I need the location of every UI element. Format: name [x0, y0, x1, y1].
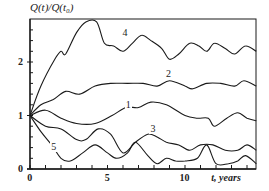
series-line-2 — [30, 81, 256, 116]
y-tick-label: 2 — [18, 57, 23, 67]
series-label-5: 5 — [50, 142, 57, 152]
series-lines — [30, 20, 256, 165]
plot-area — [0, 0, 269, 191]
x-tick-label: 5 — [105, 173, 110, 183]
y-tick-label: 0 — [18, 164, 23, 174]
x-tick-label: 10 — [180, 173, 190, 183]
y-tick-label: 1 — [18, 111, 23, 121]
series-line-4 — [30, 20, 256, 116]
x-axis-title: t, years — [211, 173, 240, 183]
plot-frame — [30, 19, 256, 169]
x-tick-label: 0 — [27, 173, 32, 183]
series-line-1 — [30, 102, 256, 126]
y-axis-title: Q(t)/Q(t₀) — [30, 1, 74, 13]
series-label-3: 3 — [149, 124, 156, 134]
series-line-5 — [30, 116, 256, 166]
series-label-4: 4 — [122, 28, 129, 38]
series-label-1: 1 — [125, 100, 132, 110]
chart-container: Q(t)/Q(t₀) 0510012 t, years 12345 — [0, 0, 269, 191]
series-label-2: 2 — [165, 69, 172, 79]
